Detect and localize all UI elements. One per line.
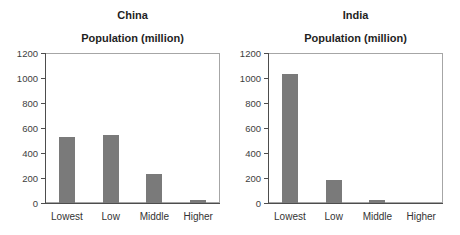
bar-middle — [369, 200, 385, 203]
y-tick-mark — [264, 103, 268, 104]
x-category-label-middle: Middle — [133, 211, 177, 223]
y-tick-mark — [264, 78, 268, 79]
chart-axis-title-india: Population (million) — [268, 32, 443, 45]
y-tick-mark — [41, 53, 45, 54]
y-tick-label: 0 — [4, 198, 38, 209]
y-tick-label: 0 — [227, 198, 261, 209]
bar-low — [326, 180, 342, 203]
chart-country-title-india: India — [268, 9, 443, 22]
x-category-label-low: Low — [312, 211, 356, 223]
x-category-label-lowest: Lowest — [45, 211, 89, 223]
chart-india: India Population (million) 0200400600800… — [230, 0, 460, 235]
chart-china: China Population (million) 0200400600800… — [0, 0, 230, 235]
y-tick-mark — [41, 128, 45, 129]
y-tick-label: 1000 — [227, 73, 261, 84]
y-tick-label: 1200 — [227, 48, 261, 59]
x-category-label-middle: Middle — [356, 211, 400, 223]
y-tick-label: 600 — [4, 123, 38, 134]
y-tick-label: 1200 — [4, 48, 38, 59]
bar-higher — [190, 200, 206, 203]
y-tick-label: 800 — [227, 98, 261, 109]
bar-low — [103, 135, 119, 203]
y-tick-mark — [41, 178, 45, 179]
x-category-label-higher: Higher — [399, 211, 443, 223]
y-tick-label: 800 — [4, 98, 38, 109]
x-category-label-lowest: Lowest — [268, 211, 312, 223]
x-axis-line — [45, 203, 220, 204]
y-tick-mark — [264, 153, 268, 154]
y-tick-mark — [264, 128, 268, 129]
y-tick-mark — [41, 203, 45, 204]
y-tick-label: 600 — [227, 123, 261, 134]
y-tick-mark — [264, 203, 268, 204]
y-axis-line — [268, 53, 269, 204]
x-axis-line — [268, 203, 443, 204]
y-tick-mark — [41, 78, 45, 79]
bar-lowest — [282, 74, 298, 203]
x-category-label-low: Low — [89, 211, 133, 223]
y-axis-line — [45, 53, 46, 204]
y-tick-mark — [264, 53, 268, 54]
y-tick-mark — [41, 103, 45, 104]
y-tick-mark — [41, 153, 45, 154]
y-tick-label: 400 — [227, 148, 261, 159]
y-tick-mark — [264, 178, 268, 179]
bar-lowest — [59, 137, 75, 203]
y-tick-label: 400 — [4, 148, 38, 159]
y-tick-label: 200 — [4, 173, 38, 184]
y-tick-label: 200 — [227, 173, 261, 184]
bar-middle — [146, 174, 162, 203]
chart-axis-title-china: Population (million) — [45, 32, 220, 45]
y-tick-label: 1000 — [4, 73, 38, 84]
x-category-label-higher: Higher — [176, 211, 220, 223]
chart-country-title-china: China — [45, 9, 220, 22]
